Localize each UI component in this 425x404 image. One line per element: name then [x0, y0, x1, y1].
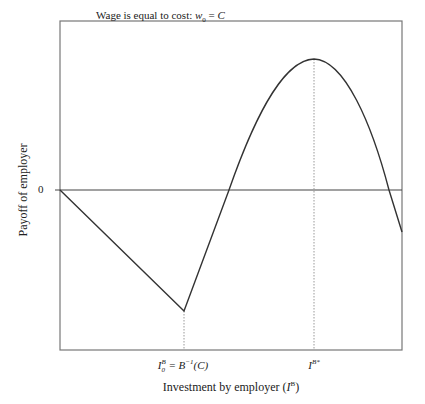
- annotation-text: Wage is equal to cost: w0 = C: [96, 9, 225, 24]
- annotation-eq: =: [206, 9, 218, 21]
- tick1-rhs: = B: [166, 359, 186, 371]
- x-axis-label: Investment by employer (IB): [163, 380, 299, 395]
- annotation-rhs: C: [218, 9, 225, 21]
- tick1-rhs-arg: (C): [194, 359, 209, 371]
- xlabel-suffix: ): [295, 380, 299, 394]
- payoff-curve: [60, 59, 402, 311]
- x-tick-i0: IB0 = B−1(C): [158, 358, 209, 374]
- tick2-sup: B*: [312, 358, 320, 366]
- annotation-prefix: Wage is equal to cost:: [96, 9, 195, 21]
- x-tick-istar: IB*: [308, 358, 319, 371]
- y-tick-zero: 0: [38, 183, 44, 195]
- y-axis-label: Payoff of employer: [16, 143, 31, 236]
- chart-canvas: [0, 0, 425, 404]
- tick1-rhs-sup: −1: [185, 358, 193, 366]
- xlabel-prefix: Investment by employer (: [163, 380, 287, 394]
